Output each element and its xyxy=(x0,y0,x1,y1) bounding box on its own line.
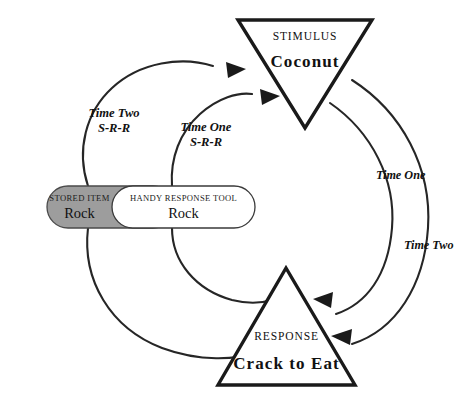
label-right-time-one: Time One xyxy=(376,168,422,183)
label-time-one-srr: Time One S-R-R xyxy=(160,120,252,150)
label-time-two-srr: Time Two S-R-R xyxy=(68,106,160,136)
diagram-canvas: STIMULUS Coconut RESPONSE Crack to Eat S… xyxy=(0,0,461,404)
label-right-time-two-line1: Time xyxy=(404,238,429,252)
stimulus-title: STIMULUS xyxy=(238,30,372,42)
tool-title: HANDY RESPONSE TOOL xyxy=(118,193,249,203)
stored-item-value: Rock xyxy=(47,205,112,222)
label-time-one-srr-line1: Time One xyxy=(181,120,232,134)
arrowhead-right-inner xyxy=(313,292,333,308)
label-time-two-srr-line2: S-R-R xyxy=(68,121,160,136)
tool-value: Rock xyxy=(118,205,249,222)
label-time-one-srr-line2: S-R-R xyxy=(160,135,252,150)
label-right-time-one-line2: One xyxy=(404,168,425,182)
path-lower-inner xyxy=(172,228,272,303)
arrowhead-left-inner xyxy=(260,89,280,105)
label-right-time-two-line2: Two xyxy=(432,238,453,252)
stimulus-value: Coconut xyxy=(238,52,372,72)
path-right-outer-time-two xyxy=(352,80,428,344)
response-title: RESPONSE xyxy=(218,330,355,342)
path-right-inner-time-one xyxy=(330,103,392,314)
label-right-time-two: Time Two xyxy=(404,238,450,253)
label-time-two-srr-line1: Time Two xyxy=(88,106,139,120)
response-value: Crack to Eat xyxy=(213,354,360,374)
stored-item-title: STORED ITEM xyxy=(47,193,112,203)
label-right-time-one-line1: Time xyxy=(376,168,401,182)
